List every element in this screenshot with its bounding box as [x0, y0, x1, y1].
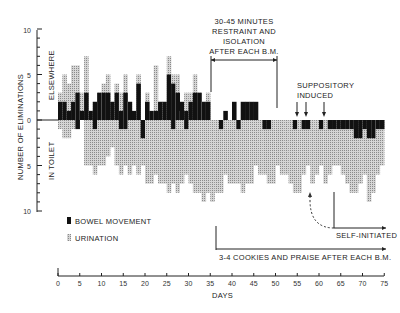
- y-tick-0: 0: [27, 117, 31, 124]
- svg-text:5: 5: [78, 280, 82, 287]
- svg-text:65: 65: [337, 280, 345, 287]
- svg-text:45: 45: [250, 280, 258, 287]
- legend-ur: URINATION: [75, 234, 118, 243]
- svg-text:75: 75: [380, 280, 388, 287]
- svg-text:30-45 MINUTES: 30-45 MINUTES: [215, 17, 274, 26]
- svg-text:40: 40: [228, 280, 236, 287]
- svg-text:SUPPOSITORY: SUPPOSITORY: [297, 81, 354, 90]
- x-axis: 051015202530354045505560657075 DAYS: [56, 268, 388, 300]
- svg-text:RESTRAINT AND: RESTRAINT AND: [212, 27, 276, 36]
- svg-text:25: 25: [163, 280, 171, 287]
- svg-text:ISOLATION: ISOLATION: [223, 37, 265, 46]
- y-axis-label: NUMBER OF ELIMINATIONS: [16, 74, 25, 180]
- y-tick-10-bottom: 10: [23, 208, 31, 215]
- x-axis-label: DAYS: [212, 291, 233, 300]
- bars: [58, 56, 384, 202]
- svg-text:3-4 COOKIES AND PRAISE AFTER E: 3-4 COOKIES AND PRAISE AFTER EACH B.M.: [219, 253, 391, 262]
- in-toilet-label: IN TOILET: [47, 142, 56, 180]
- svg-text:AFTER EACH B.M.: AFTER EACH B.M.: [209, 47, 279, 56]
- annotation-restraint: 30-45 MINUTES RESTRAINT AND ISOLATION AF…: [209, 17, 279, 108]
- elsewhere-label: ELSEWHERE: [47, 50, 56, 100]
- annotation-suppository: SUPPOSITORY INDUCED: [295, 81, 354, 117]
- y-tick-5-bottom: 5: [27, 163, 31, 170]
- legend: BOWEL MOVEMENT URINATION: [67, 217, 152, 243]
- chart: 10 5 0 5 10 NUMBER OF ELIMINATIONS ELSEW…: [0, 0, 400, 313]
- svg-text:0: 0: [56, 280, 60, 287]
- legend-ur-swatch: [67, 234, 71, 241]
- svg-text:10: 10: [98, 280, 106, 287]
- y-tick-10-top: 10: [23, 27, 31, 34]
- legend-bm-swatch: [67, 217, 71, 224]
- svg-text:SELF-INITIATED: SELF-INITIATED: [336, 231, 397, 240]
- svg-text:60: 60: [315, 280, 323, 287]
- svg-text:15: 15: [119, 280, 127, 287]
- svg-text:20: 20: [141, 280, 149, 287]
- y-tick-5-top: 5: [27, 72, 31, 79]
- annotation-self-initiated: SELF-INITIATED: [308, 192, 397, 240]
- legend-bm: BOWEL MOVEMENT: [75, 217, 152, 226]
- svg-text:70: 70: [359, 280, 367, 287]
- svg-text:INDUCED: INDUCED: [297, 91, 334, 100]
- svg-text:50: 50: [272, 280, 280, 287]
- svg-text:35: 35: [206, 280, 214, 287]
- svg-text:55: 55: [293, 280, 301, 287]
- svg-text:30: 30: [185, 280, 193, 287]
